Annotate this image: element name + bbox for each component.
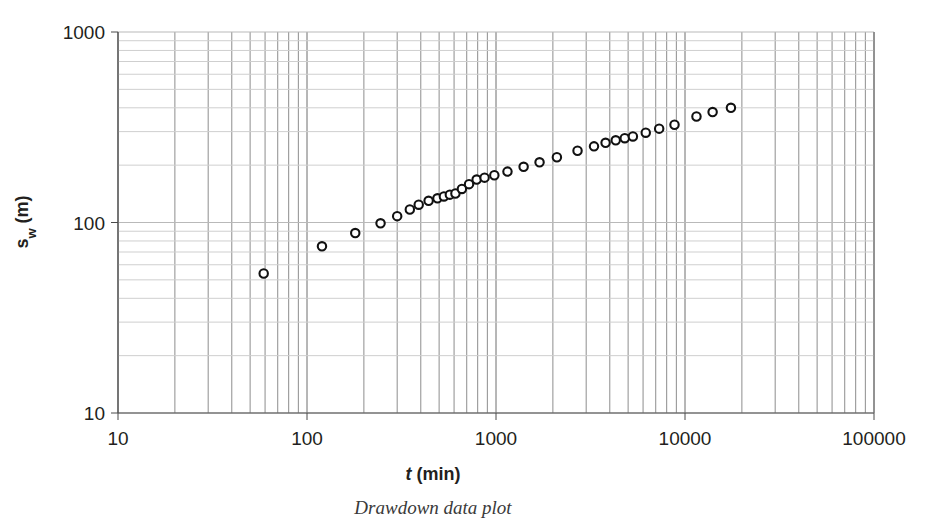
y-tick-label: 10 — [84, 403, 105, 424]
data-point — [692, 112, 700, 120]
x-tick-label: 1000 — [475, 428, 517, 449]
figure-caption: Drawdown data plot — [353, 497, 512, 518]
data-point — [503, 167, 511, 175]
data-point — [406, 205, 414, 213]
data-point — [519, 163, 527, 171]
x-tick-label: 10 — [107, 428, 128, 449]
data-point — [393, 212, 401, 220]
y-tick-label: 1000 — [63, 22, 105, 43]
data-point — [612, 136, 620, 144]
data-point — [424, 197, 432, 205]
data-point — [415, 201, 423, 209]
data-point — [535, 158, 543, 166]
data-point — [629, 132, 637, 140]
data-point — [351, 229, 359, 237]
data-point — [621, 134, 629, 142]
x-axis-title: t (min) — [406, 464, 461, 484]
x-tick-label: 100 — [291, 428, 323, 449]
data-point — [318, 242, 326, 250]
data-point — [590, 142, 598, 150]
data-point — [480, 173, 488, 181]
data-point — [670, 121, 678, 129]
data-point — [553, 153, 561, 161]
data-point — [655, 124, 663, 132]
drawdown-loglog-chart: 10100100010000100000101001000 t (min) sw… — [0, 0, 929, 519]
data-point — [573, 147, 581, 155]
data-point — [727, 104, 735, 112]
data-point — [642, 129, 650, 137]
data-point — [490, 171, 498, 179]
data-point — [601, 139, 609, 147]
data-point — [708, 108, 716, 116]
y-tick-label: 100 — [73, 213, 105, 234]
figure-container: 10100100010000100000101001000 t (min) sw… — [0, 0, 929, 519]
data-point — [376, 219, 384, 227]
x-tick-label: 100000 — [842, 428, 905, 449]
data-point — [259, 269, 267, 277]
chart-background — [0, 0, 929, 519]
grid-layer — [118, 32, 874, 413]
x-tick-label: 10000 — [659, 428, 712, 449]
